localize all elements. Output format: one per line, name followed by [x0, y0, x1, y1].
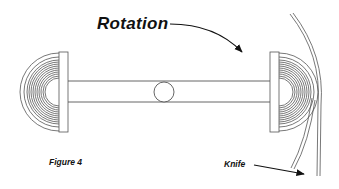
- knife-arrow-icon: [254, 165, 304, 174]
- rotation-label: Rotation: [97, 14, 168, 34]
- knife-blade: [291, 98, 315, 169]
- right-roll: [270, 52, 318, 132]
- right-roll-rings: [279, 53, 318, 131]
- left-roll-rings: [20, 53, 59, 131]
- center-hub-circle: [154, 82, 174, 102]
- left-flange: [59, 52, 68, 132]
- figure-caption: Figure 4: [49, 157, 82, 167]
- rotation-arrow-icon: [170, 24, 242, 52]
- knife-label: Knife: [224, 159, 245, 169]
- right-flange: [270, 52, 279, 132]
- left-roll: [20, 52, 68, 132]
